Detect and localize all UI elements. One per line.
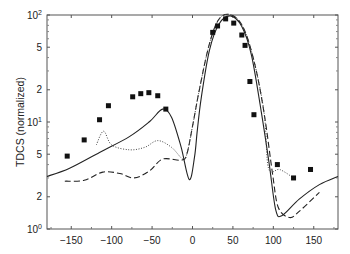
data-point-marker xyxy=(239,33,244,38)
y-tick-label: 5 xyxy=(36,149,42,160)
data-point-marker xyxy=(65,154,70,159)
y-axis: 1002510125102 xyxy=(27,9,338,235)
data-point-marker xyxy=(223,16,228,21)
y-tick-label: 102 xyxy=(27,9,42,21)
y-tick-label: 100 xyxy=(27,223,42,235)
x-axis: −150−100−50050100150 xyxy=(51,15,334,246)
data-point-marker xyxy=(275,162,280,167)
data-point-marker xyxy=(210,30,215,35)
x-tick-label: −100 xyxy=(100,235,123,246)
x-tick-label: −50 xyxy=(144,235,161,246)
x-tick-label: 100 xyxy=(265,235,282,246)
tdcs-chart: −150−100−50050100150 1002510125102 TDCS … xyxy=(0,0,350,254)
plot-frame xyxy=(47,15,338,229)
data-point-marker xyxy=(231,21,236,26)
data-point-marker xyxy=(243,43,248,48)
data-point-marker xyxy=(138,91,143,96)
y-axis-label: TDCS (normalized) xyxy=(14,77,26,167)
x-tick-label: −150 xyxy=(60,235,83,246)
plot-border xyxy=(47,15,338,229)
data-point-marker xyxy=(155,93,160,98)
y-tick-label: 2 xyxy=(36,84,42,95)
data-point-marker xyxy=(291,175,296,180)
y-tick-label: 5 xyxy=(36,42,42,53)
series-layer xyxy=(47,14,338,217)
data-point-marker xyxy=(215,23,220,28)
data-point-marker xyxy=(130,94,135,99)
data-point-marker xyxy=(163,107,168,112)
y-tick-label: 101 xyxy=(27,116,42,128)
data-point-marker xyxy=(308,167,313,172)
data-point-marker xyxy=(247,79,252,84)
x-tick-label: 50 xyxy=(227,235,239,246)
data-point-marker xyxy=(146,90,151,95)
x-tick-label: 150 xyxy=(305,235,322,246)
data-point-marker xyxy=(97,117,102,122)
curve-solid xyxy=(47,16,338,217)
data-point-marker xyxy=(251,112,256,117)
data-point-marker xyxy=(106,103,111,108)
data-point-marker xyxy=(82,137,87,142)
x-tick-label: 0 xyxy=(190,235,196,246)
curve-dashed xyxy=(65,14,320,217)
y-tick-label: 2 xyxy=(36,191,42,202)
